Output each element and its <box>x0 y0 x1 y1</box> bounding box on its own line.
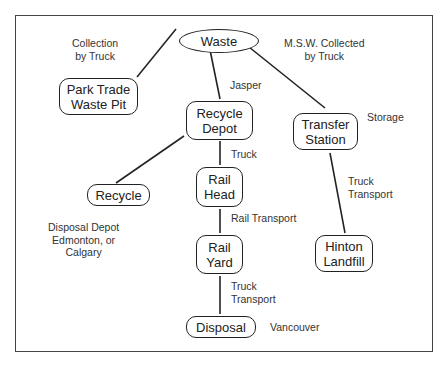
label-line: Transport <box>348 188 393 201</box>
label-line: Edmonton, or <box>48 234 119 247</box>
label-storage: Storage <box>367 111 404 124</box>
label-line: Truck <box>348 175 393 188</box>
label-collection-by-truck: Collection by Truck <box>72 37 118 62</box>
node-rail-head: Rail Head <box>196 167 243 207</box>
label-line: Jasper <box>230 79 262 92</box>
label-line: M.S.W. Collected <box>284 37 365 50</box>
node-hinton-landfill-line-2: Landfill <box>323 254 364 269</box>
node-recycle-line-1: Recycle <box>95 188 141 203</box>
label-line: Truck <box>231 148 257 161</box>
label-truck-transport-bottom: Truck Transport <box>231 280 276 305</box>
node-rail-yard-line-2: Yard <box>206 255 233 270</box>
node-park-trade-waste-pit: Park Trade Waste Pit <box>59 78 138 115</box>
node-transfer-station-line-1: Transfer <box>302 117 350 132</box>
label-msw-collected-by-truck: M.S.W. Collected by Truck <box>284 37 365 62</box>
node-transfer-station: Transfer Station <box>293 113 358 150</box>
label-line: Calgary <box>48 246 119 259</box>
node-waste-line-1: Waste <box>201 34 237 49</box>
node-rail-yard: Rail Yard <box>196 235 243 274</box>
label-rail-transport: Rail Transport <box>231 212 296 225</box>
label-line: by Truck <box>72 50 118 63</box>
label-line: Disposal Depot <box>48 221 119 234</box>
edge-transfer-station-hinton <box>330 153 345 233</box>
node-disposal-line-1: Disposal <box>196 320 246 335</box>
edge-waste-park-trade <box>137 29 176 77</box>
node-disposal: Disposal <box>186 316 256 338</box>
node-recycle: Recycle <box>87 184 150 206</box>
label-line: Vancouver <box>270 321 319 334</box>
label-line: Rail Transport <box>231 212 296 225</box>
label-line: Truck <box>231 280 276 293</box>
label-disposal-depot: Disposal Depot Edmonton, or Calgary <box>48 221 119 259</box>
node-hinton-landfill: Hinton Landfill <box>315 235 373 272</box>
label-jasper: Jasper <box>230 79 262 92</box>
label-line: Transport <box>231 293 276 306</box>
node-rail-head-line-1: Rail <box>208 172 230 187</box>
label-truck-transport-right: Truck Transport <box>348 175 393 200</box>
edge-recycle-depot-recycle <box>116 136 184 183</box>
label-line: by Truck <box>284 50 365 63</box>
node-recycle-depot: Recycle Depot <box>186 101 253 140</box>
label-line: Storage <box>367 111 404 124</box>
node-park-trade-line-2: Waste Pit <box>71 97 126 112</box>
node-rail-head-line-2: Head <box>204 187 235 202</box>
node-rail-yard-line-1: Rail <box>208 240 230 255</box>
node-hinton-landfill-line-1: Hinton <box>325 239 363 254</box>
node-transfer-station-line-2: Station <box>305 132 345 147</box>
node-recycle-depot-line-1: Recycle <box>196 106 242 121</box>
node-recycle-depot-line-2: Depot <box>202 121 237 136</box>
node-waste: Waste <box>179 29 259 53</box>
label-truck: Truck <box>231 148 257 161</box>
label-line: Collection <box>72 37 118 50</box>
node-park-trade-line-1: Park Trade <box>67 82 131 97</box>
label-vancouver: Vancouver <box>270 321 319 334</box>
